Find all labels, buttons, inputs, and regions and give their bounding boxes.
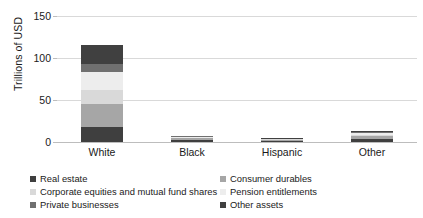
- y-axis-tick-label: 100: [33, 52, 51, 64]
- bar-segment: [81, 90, 123, 104]
- legend-label: Other assets: [230, 199, 283, 210]
- bar-segment: [351, 139, 393, 142]
- legend-label: Pension entitlements: [230, 186, 317, 197]
- x-axis-line: [57, 142, 417, 143]
- y-axis-title: Trillions of USD: [12, 0, 24, 114]
- bar-segment: [81, 72, 123, 90]
- x-axis-label-white: White: [89, 146, 116, 158]
- bar-segment: [261, 141, 303, 142]
- bar-black: [171, 136, 213, 142]
- legend-swatch-icon: [30, 176, 36, 182]
- bar-segment: [81, 104, 123, 127]
- legend-swatch-icon: [30, 189, 36, 195]
- bar-segment: [171, 140, 213, 142]
- y-axis-tick-mark: [53, 100, 57, 101]
- plot-area: 050100150: [57, 16, 417, 142]
- legend-swatch-icon: [220, 189, 226, 195]
- y-axis-tick-label: 0: [45, 136, 51, 148]
- bar-segment: [81, 45, 123, 63]
- legend-item[interactable]: Real estate: [30, 172, 212, 185]
- chart-container: Trillions of USD 050100150 Real estateCo…: [0, 0, 423, 218]
- legend-item[interactable]: Private businesses: [30, 198, 212, 211]
- legend-label: Real estate: [40, 173, 87, 184]
- bar-segment: [81, 127, 123, 142]
- legend-swatch-icon: [30, 202, 36, 208]
- y-axis-tick-label: 50: [39, 94, 51, 106]
- x-axis-label-black: Black: [179, 146, 205, 158]
- chart-legend: Real estateConsumer durablesCorporate eq…: [30, 172, 415, 211]
- legend-swatch-icon: [220, 202, 226, 208]
- legend-item[interactable]: Consumer durables: [220, 172, 395, 185]
- gridline: [57, 16, 417, 17]
- bar-other: [351, 131, 393, 142]
- legend-label: Consumer durables: [230, 173, 312, 184]
- bar-white: [81, 45, 123, 142]
- y-axis-tick-mark: [53, 142, 57, 143]
- y-axis-tick-mark: [53, 16, 57, 17]
- legend-swatch-icon: [220, 176, 226, 182]
- legend-label: Corporate equities and mutual fund share…: [40, 186, 217, 197]
- y-axis-tick-mark: [53, 58, 57, 59]
- bar-segment: [81, 64, 123, 72]
- legend-item[interactable]: Other assets: [220, 198, 395, 211]
- legend-item[interactable]: Corporate equities and mutual fund share…: [30, 185, 212, 198]
- x-axis-label-hispanic: Hispanic: [262, 146, 302, 158]
- legend-label: Private businesses: [40, 199, 119, 210]
- legend-item[interactable]: Pension entitlements: [220, 185, 395, 198]
- bar-hispanic: [261, 138, 303, 142]
- y-axis-tick-label: 150: [33, 10, 51, 22]
- x-axis-label-other: Other: [359, 146, 385, 158]
